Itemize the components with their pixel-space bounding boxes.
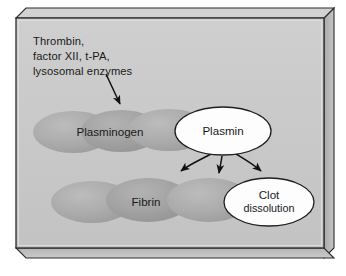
clot-dissolution-node: Clot dissolution [224, 178, 314, 226]
plasmin-label: Plasmin [202, 124, 243, 137]
panel-bottom-face [16, 248, 334, 258]
panel-top-bevel [16, 8, 334, 18]
fibrin-label: Fibrin [132, 195, 161, 208]
clot-dissolution-label-line1: Clot [259, 188, 280, 201]
plasmin-node: Plasmin [175, 107, 271, 155]
panel-side-face [324, 8, 334, 258]
clot-dissolution-label-line2: dissolution [243, 202, 294, 214]
enzymes-line-3: lysosomal enzymes [33, 65, 133, 77]
enzymes-line-1: Thrombin, [33, 35, 84, 47]
fibrinolysis-diagram: Plasmin Clot dissolution Plasminogen Fib… [0, 0, 346, 276]
enzymes-line-2: factor XII, t-PA, [33, 50, 110, 62]
plasminogen-label: Plasminogen [76, 125, 143, 138]
